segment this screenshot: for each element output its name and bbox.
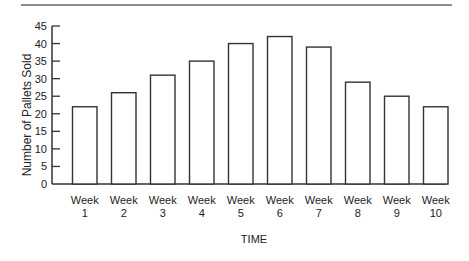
x-tick-label: Week bbox=[227, 194, 255, 206]
x-tick-label-number: 2 bbox=[121, 207, 127, 219]
x-axis-label: TIME bbox=[241, 233, 267, 245]
x-tick-label: Week bbox=[266, 194, 294, 206]
x-tick-label: Week bbox=[71, 194, 99, 206]
x-tick-label: Week bbox=[383, 194, 411, 206]
bars bbox=[73, 37, 449, 184]
x-tick-label: Week bbox=[188, 194, 216, 206]
y-tick-label: 20 bbox=[35, 108, 47, 120]
bar-week-10 bbox=[424, 107, 449, 184]
x-tick-label-number: 10 bbox=[430, 207, 442, 219]
x-axis: Week1Week2Week3Week4Week5Week6Week7Week8… bbox=[52, 184, 450, 219]
y-tick-label: 45 bbox=[35, 20, 47, 32]
y-tick-label: 25 bbox=[35, 90, 47, 102]
bar-week-1 bbox=[73, 107, 98, 184]
y-tick-label: 40 bbox=[35, 38, 47, 50]
y-tick-label: 35 bbox=[35, 55, 47, 67]
bar-week-7 bbox=[307, 47, 332, 184]
x-tick-label: Week bbox=[305, 194, 333, 206]
y-tick-label: 5 bbox=[41, 160, 47, 172]
x-tick-label-number: 9 bbox=[394, 207, 400, 219]
bar-chart: 051015202530354045 Week1Week2Week3Week4W… bbox=[0, 0, 469, 261]
bar-week-8 bbox=[346, 82, 371, 184]
x-tick-label-number: 6 bbox=[277, 207, 283, 219]
x-tick-label-number: 3 bbox=[160, 207, 166, 219]
bar-week-5 bbox=[229, 44, 254, 184]
bar-week-2 bbox=[112, 93, 137, 184]
y-tick-label: 15 bbox=[35, 125, 47, 137]
x-tick-label-number: 8 bbox=[355, 207, 361, 219]
x-tick-label-number: 7 bbox=[316, 207, 322, 219]
x-tick-label: Week bbox=[344, 194, 372, 206]
x-tick-label-number: 5 bbox=[238, 207, 244, 219]
x-tick-label-number: 1 bbox=[82, 207, 88, 219]
y-tick-label: 10 bbox=[35, 143, 47, 155]
y-tick-label: 30 bbox=[35, 73, 47, 85]
x-tick-label: Week bbox=[149, 194, 177, 206]
bar-week-9 bbox=[385, 96, 410, 184]
bar-week-3 bbox=[151, 75, 176, 184]
y-axis-label: Number of Pallets Sold bbox=[20, 54, 34, 177]
x-tick-label: Week bbox=[110, 194, 138, 206]
y-tick-label: 0 bbox=[41, 178, 47, 190]
y-axis: 051015202530354045 bbox=[35, 20, 60, 190]
x-tick-label: Week bbox=[422, 194, 450, 206]
x-tick-label-number: 4 bbox=[199, 207, 205, 219]
bar-week-6 bbox=[268, 37, 293, 184]
bar-week-4 bbox=[190, 61, 215, 184]
